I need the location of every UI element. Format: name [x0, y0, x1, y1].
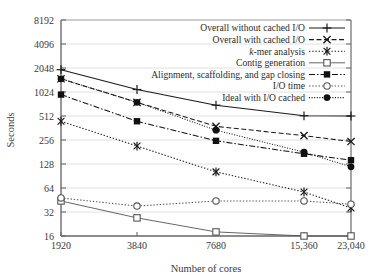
- series-4: [58, 91, 354, 163]
- y-axis-title: Seconds: [5, 113, 16, 148]
- y-tick-label: 64: [44, 183, 54, 194]
- y-tick-label: 128: [39, 159, 54, 170]
- legend-sample-1: [309, 36, 345, 43]
- legend-label-2: k-mer analysis: [249, 46, 305, 57]
- line-chart-svg: 1632641282565121024204840968192 19203840…: [0, 0, 379, 278]
- axes: [61, 20, 351, 236]
- gridlines: [61, 20, 351, 236]
- y-tick-label: 1024: [34, 87, 54, 98]
- chart-legend: Overall without cached I/OOverall with c…: [151, 22, 345, 103]
- series-2: [58, 117, 355, 212]
- y-tick-label: 4096: [34, 39, 54, 50]
- chart-figure: 1632641282565121024204840968192 19203840…: [0, 0, 379, 278]
- legend-sample-3: [309, 60, 345, 66]
- x-axis-ticks: 19203840768015,36023,040: [51, 232, 365, 251]
- x-tick-label: 15,360: [290, 240, 318, 251]
- y-tick-label: 32: [44, 207, 54, 218]
- x-axis-title: Number of cores: [171, 263, 242, 274]
- x-tick-label: 3840: [127, 240, 147, 251]
- data-series-layer: [57, 65, 356, 239]
- y-tick-label: 2048: [34, 63, 54, 74]
- legend-label-5: I/O time: [273, 80, 305, 91]
- x-tick-label: 23,040: [337, 240, 365, 251]
- legend-label-0: Overall without cached I/O: [200, 22, 305, 33]
- legend-sample-6: [309, 94, 345, 101]
- legend-label-4: Alignment, scaffolding, and gap closing: [151, 69, 305, 80]
- series-3: [58, 198, 354, 239]
- legend-sample-4: [309, 71, 345, 77]
- x-tick-label: 1920: [51, 240, 71, 251]
- y-tick-label: 8192: [34, 15, 54, 26]
- y-tick-label: 512: [39, 111, 54, 122]
- legend-label-3: Contig generation: [236, 57, 305, 68]
- legend-sample-0: [309, 24, 345, 33]
- legend-sample-2: [309, 47, 345, 56]
- legend-label-6: Ideal with I/O cached: [222, 92, 305, 103]
- legend-sample-5: [309, 83, 345, 89]
- x-tick-label: 7680: [206, 240, 226, 251]
- y-tick-label: 256: [39, 135, 54, 146]
- series-5: [58, 195, 354, 209]
- legend-label-1: Overall with cached I/O: [213, 34, 306, 45]
